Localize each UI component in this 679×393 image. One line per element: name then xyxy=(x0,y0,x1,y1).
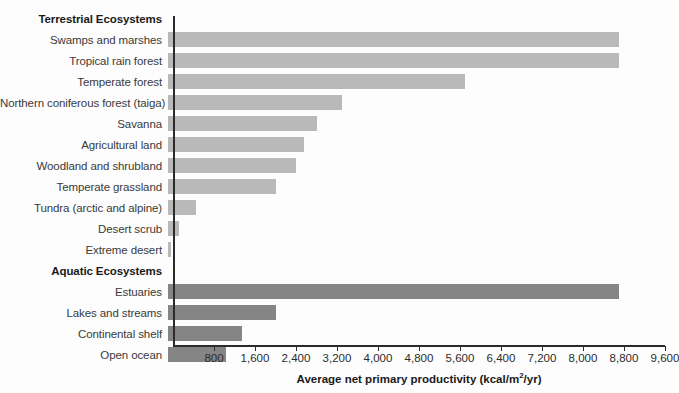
x-axis-tick-label: 8,000 xyxy=(569,352,598,364)
category-label: Lakes and streams xyxy=(0,307,168,319)
category-label: Temperate grassland xyxy=(0,181,168,193)
chart-row: Tropical rain forest xyxy=(0,50,675,71)
x-axis-tick-label: 4,800 xyxy=(405,352,434,364)
category-label: Woodland and shrubland xyxy=(0,160,168,172)
category-label: Savanna xyxy=(0,118,168,130)
category-label: Tundra (arctic and alpine) xyxy=(0,202,168,214)
x-axis-tick-label: 6,400 xyxy=(487,352,516,364)
x-axis-tick xyxy=(255,346,256,351)
bar-aquatic xyxy=(168,305,276,320)
bar-track xyxy=(168,239,675,260)
chart-row: Temperate grassland xyxy=(0,176,675,197)
category-label: Extreme desert xyxy=(0,244,168,256)
x-axis-tick-label: 4,000 xyxy=(364,352,393,364)
bar-terrestrial xyxy=(168,179,276,194)
x-axis-tick xyxy=(378,346,379,351)
bar-track xyxy=(168,8,675,29)
bar-track xyxy=(168,281,675,302)
category-label: Swamps and marshes xyxy=(0,34,168,46)
bar-aquatic xyxy=(168,284,619,299)
x-axis-tick-label: 7,200 xyxy=(528,352,557,364)
chart-row: Northern coniferous forest (taiga) xyxy=(0,92,675,113)
bar-track xyxy=(168,71,675,92)
x-axis-tick-label: 3,200 xyxy=(323,352,352,364)
x-axis-tick-label: 2,400 xyxy=(282,352,311,364)
chart-row: Woodland and shrubland xyxy=(0,155,675,176)
chart-row: Agricultural land xyxy=(0,134,675,155)
x-axis-tick xyxy=(665,346,666,351)
chart-row: Desert scrub xyxy=(0,218,675,239)
category-label: Desert scrub xyxy=(0,223,168,235)
bar-aquatic xyxy=(168,326,242,341)
x-axis-tick xyxy=(460,346,461,351)
bar-track xyxy=(168,155,675,176)
bar-track xyxy=(168,134,675,155)
bar-track xyxy=(168,29,675,50)
x-axis-tick xyxy=(624,346,625,351)
chart-row: Extreme desert xyxy=(0,239,675,260)
bar-terrestrial xyxy=(168,95,342,110)
bar-track xyxy=(168,92,675,113)
chart-row: Savanna xyxy=(0,113,675,134)
category-label: Tropical rain forest xyxy=(0,55,168,67)
x-axis-tick-label: 9,600 xyxy=(651,352,679,364)
x-axis-tick xyxy=(214,346,215,351)
group-heading-label: Terrestrial Ecosystems xyxy=(0,13,168,25)
bar-track xyxy=(168,218,675,239)
chart-row: Temperate forest xyxy=(0,71,675,92)
bar-terrestrial xyxy=(168,74,465,89)
x-axis-title-tail: /yr) xyxy=(524,373,542,385)
bar-terrestrial xyxy=(168,53,619,68)
x-axis-tick xyxy=(419,346,420,351)
category-label: Northern coniferous forest (taiga) xyxy=(0,97,168,109)
bar-terrestrial xyxy=(168,158,296,173)
bar-track xyxy=(168,323,675,344)
bar-track xyxy=(168,113,675,134)
x-axis-tick-label: 5,600 xyxy=(446,352,475,364)
category-label: Temperate forest xyxy=(0,76,168,88)
y-axis-line xyxy=(173,16,175,346)
bar-terrestrial xyxy=(168,242,171,257)
chart-row: Lakes and streams xyxy=(0,302,675,323)
x-axis-title: Average net primary productivity (kcal/m… xyxy=(173,371,665,385)
bar-terrestrial xyxy=(168,32,619,47)
chart-row: Tundra (arctic and alpine) xyxy=(0,197,675,218)
category-label: Continental shelf xyxy=(0,328,168,340)
group-heading-label: Aquatic Ecosystems xyxy=(0,265,168,277)
bar-terrestrial xyxy=(168,137,304,152)
bar-track xyxy=(168,302,675,323)
category-label: Open ocean xyxy=(0,349,168,361)
category-label: Estuaries xyxy=(0,286,168,298)
x-axis-tick-label: 1,600 xyxy=(241,352,270,364)
category-label: Agricultural land xyxy=(0,139,168,151)
x-axis-title-main: Average net primary productivity (kcal/m xyxy=(297,373,520,385)
bar-track xyxy=(168,50,675,71)
chart-row: Continental shelf xyxy=(0,323,675,344)
bar-track xyxy=(168,260,675,281)
chart-row: Swamps and marshes xyxy=(0,29,675,50)
x-axis-tick xyxy=(501,346,502,351)
group-heading-row: Terrestrial Ecosystems xyxy=(0,8,675,29)
x-axis-tick-label: 8,800 xyxy=(610,352,639,364)
x-axis-tick xyxy=(296,346,297,351)
bar-terrestrial xyxy=(168,116,317,131)
x-axis-tick xyxy=(583,346,584,351)
x-axis-tick-label: 800 xyxy=(204,352,223,364)
chart-row: Estuaries xyxy=(0,281,675,302)
bar-track xyxy=(168,197,675,218)
x-axis-tick xyxy=(542,346,543,351)
group-heading-row: Aquatic Ecosystems xyxy=(0,260,675,281)
bar-track xyxy=(168,176,675,197)
chart-rows: Terrestrial EcosystemsSwamps and marshes… xyxy=(0,8,675,365)
x-axis-tick xyxy=(337,346,338,351)
